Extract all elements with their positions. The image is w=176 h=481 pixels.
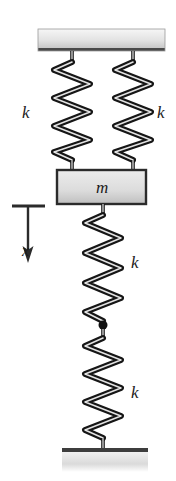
diagram-canvas bbox=[0, 0, 176, 481]
spring-top-right bbox=[115, 51, 151, 170]
fixed-ceiling-support bbox=[38, 29, 165, 51]
fixed-ground-support bbox=[62, 448, 148, 472]
spring-mass-diagram: k k k k m x bbox=[0, 0, 176, 481]
spring-label-k-top-right: k bbox=[157, 104, 165, 121]
spring-middle bbox=[85, 204, 121, 321]
spring-label-k-top-left: k bbox=[22, 104, 30, 121]
spring-bottom bbox=[85, 329, 121, 449]
spring-label-k-bottom: k bbox=[131, 384, 139, 401]
spring-label-k-middle: k bbox=[131, 254, 139, 271]
displacement-label-x: x bbox=[22, 243, 29, 259]
spring-top-left bbox=[54, 51, 90, 170]
mass-label-m: m bbox=[96, 179, 108, 196]
spring-series-junction bbox=[99, 321, 108, 330]
